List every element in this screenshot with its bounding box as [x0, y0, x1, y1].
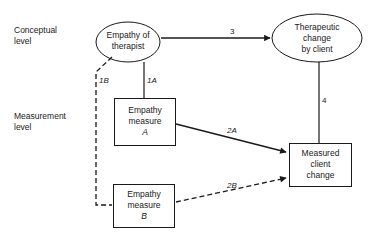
- edge-label-2a: 2A: [227, 126, 237, 136]
- edge-label-4: 4: [322, 96, 326, 106]
- measurement-level-label: Measurement level: [14, 111, 66, 133]
- node-text: B: [113, 211, 175, 222]
- node-text: Measured: [289, 148, 352, 159]
- conceptual-level-label: Conceptual level: [14, 25, 57, 47]
- edge-label-2b: 2B: [227, 181, 237, 191]
- node-text: measure: [114, 116, 176, 127]
- node-empathy-measure-a: Empathy measure A: [114, 105, 176, 138]
- node-therapeutic-change: Therapeutic change by client: [272, 22, 362, 55]
- conceptual-level-line1: Conceptual: [14, 25, 57, 36]
- node-text: Empathy of: [96, 30, 160, 41]
- edge-label-1b: 1B: [99, 76, 109, 86]
- node-measured-client-change: Measured client change: [289, 148, 352, 181]
- conceptual-level-line2: level: [14, 36, 57, 47]
- node-text: measure: [113, 200, 175, 211]
- node-text: therapist: [96, 41, 160, 52]
- node-text: Empathy: [114, 105, 176, 116]
- edge-label-3: 3: [230, 27, 234, 37]
- node-text: by client: [272, 44, 362, 55]
- node-text: client: [289, 159, 352, 170]
- edge-label-1a: 1A: [147, 76, 157, 86]
- node-text: A: [114, 127, 176, 138]
- node-empathy-of-therapist: Empathy of therapist: [96, 30, 160, 52]
- measurement-level-line1: Measurement: [14, 111, 66, 122]
- measurement-level-line2: level: [14, 122, 66, 133]
- node-text: change: [289, 170, 352, 181]
- node-text: Empathy: [113, 189, 175, 200]
- node-empathy-measure-b: Empathy measure B: [113, 189, 175, 222]
- node-text: change: [272, 33, 362, 44]
- node-text: Therapeutic: [272, 22, 362, 33]
